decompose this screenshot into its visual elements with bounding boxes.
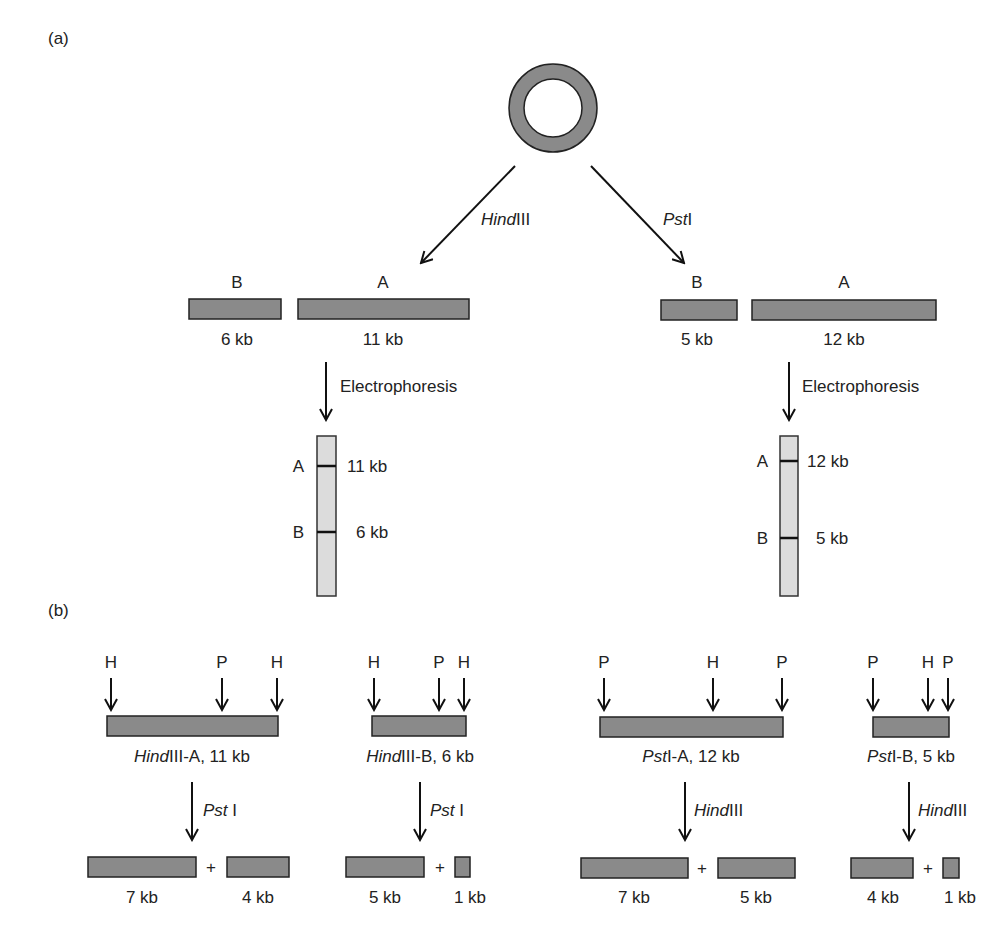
hindiii-fragment-a (298, 299, 469, 319)
product-size: 5 kb (740, 888, 772, 907)
site-label: H (105, 653, 117, 672)
psti-digest-label: PstI (663, 210, 692, 229)
band-size: 5 kb (816, 529, 848, 548)
fragment-name: A (838, 273, 850, 292)
hindiii-fragment-b (189, 299, 281, 319)
product-fragment (88, 857, 196, 877)
plus-sign: + (435, 858, 445, 877)
product-fragment (718, 858, 795, 878)
site-label: P (598, 653, 609, 672)
fragment-caption: HindIII-A, 11 kb (134, 747, 250, 766)
plasmid-ring-icon (509, 64, 597, 152)
site-label: P (433, 653, 444, 672)
site-label: H (707, 653, 719, 672)
product-size: 5 kb (369, 888, 401, 907)
site-label: P (776, 653, 787, 672)
gel-lane-hindiii (317, 436, 336, 596)
product-size: 1 kb (944, 888, 976, 907)
product-fragment (943, 858, 959, 878)
psti-fragment-b (661, 300, 737, 320)
fragment-name: B (691, 273, 702, 292)
map-psti-a: P H P PstI-A, 12 kb HindIII + 7 kb 5 kb (581, 653, 795, 907)
electrophoresis-label: Electrophoresis (340, 377, 457, 396)
digest-enzyme-label: Pst I (430, 801, 464, 820)
product-fragment (851, 858, 913, 878)
site-label: H (458, 653, 470, 672)
fragment-bar (873, 717, 949, 737)
product-size: 7 kb (126, 888, 158, 907)
band-name: A (757, 452, 769, 471)
product-fragment (581, 858, 688, 878)
digest-enzyme-label: HindIII (918, 801, 967, 820)
fragment-name: B (231, 273, 242, 292)
band-size: 12 kb (807, 452, 849, 471)
fragment-caption: HindIII-B, 6 kb (366, 747, 474, 766)
site-label: P (942, 653, 953, 672)
hindiii-digest-label: HindIII (481, 210, 530, 229)
plus-sign: + (206, 858, 216, 877)
panel-b-label: (b) (48, 601, 69, 620)
fragment-bar (107, 716, 278, 736)
band-name: B (293, 523, 304, 542)
fragment-bar (600, 717, 783, 737)
fragment-caption: PstI-B, 5 kb (867, 747, 955, 766)
fragment-bar (372, 716, 466, 736)
product-fragment (455, 857, 470, 877)
site-label: P (867, 653, 878, 672)
band-size: 6 kb (356, 523, 388, 542)
map-hindiii-b: H P H HindIII-B, 6 kb Pst I + 5 kb 1 kb (346, 653, 486, 907)
product-size: 4 kb (867, 888, 899, 907)
fragment-name: A (377, 273, 389, 292)
product-fragment (227, 857, 289, 877)
psti-fragment-a (752, 300, 936, 320)
band-name: B (757, 529, 768, 548)
panel-a-label: (a) (48, 29, 69, 48)
product-size: 4 kb (242, 888, 274, 907)
band-name: A (293, 457, 305, 476)
product-size: 1 kb (454, 888, 486, 907)
plus-sign: + (697, 859, 707, 878)
product-fragment (346, 857, 424, 877)
site-label: H (922, 653, 934, 672)
restriction-mapping-diagram: (a) HindIII PstI B 6 kb A 11 kb B 5 kb A… (0, 0, 1006, 939)
map-psti-b: P H P PstI-B, 5 kb HindIII + 4 kb 1 kb (851, 653, 976, 907)
band-size: 11 kb (347, 457, 387, 476)
digest-enzyme-label: Pst I (203, 801, 237, 820)
fragment-size: 12 kb (823, 330, 865, 349)
fragment-caption: PstI-A, 12 kb (642, 747, 739, 766)
site-label: H (368, 653, 380, 672)
plus-sign: + (923, 859, 933, 878)
site-label: P (216, 653, 227, 672)
fragment-size: 5 kb (681, 330, 713, 349)
map-hindiii-a: H P H HindIII-A, 11 kb Pst I + 7 kb 4 kb (88, 653, 289, 907)
electrophoresis-label: Electrophoresis (802, 377, 919, 396)
fragment-size: 11 kb (363, 330, 403, 349)
product-size: 7 kb (618, 888, 650, 907)
fragment-size: 6 kb (221, 330, 253, 349)
site-label: H (271, 653, 283, 672)
digest-enzyme-label: HindIII (694, 801, 743, 820)
